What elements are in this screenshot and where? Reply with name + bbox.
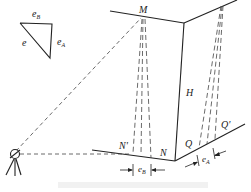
label-text: M	[139, 4, 147, 15]
label-eB-triangle: eB	[32, 9, 40, 20]
plumb-projections-M	[133, 19, 151, 158]
label-H: H	[186, 88, 193, 98]
label-text: e	[22, 37, 26, 48]
label-subscript: A	[61, 42, 65, 48]
diagram-canvas	[0, 0, 251, 192]
label-text: H	[186, 87, 193, 98]
theodolite-icon	[6, 150, 21, 177]
plumb-projections-right	[199, 6, 223, 148]
label-text: Q	[185, 138, 192, 149]
label-eA-triangle: eA	[57, 37, 65, 48]
label-e-triangle: e	[22, 38, 26, 48]
label-subscript: B	[36, 14, 40, 20]
label-eB-dimension: eB	[138, 165, 146, 175]
label-subscript: B	[142, 169, 146, 175]
label-Q: Q	[185, 139, 192, 149]
label-M: M	[139, 5, 147, 15]
label-N: N	[160, 148, 167, 158]
label-eA-dimension: eA	[202, 155, 210, 165]
label-N-prime: N'	[119, 141, 128, 151]
label-text: N	[160, 147, 167, 158]
sight-lines	[16, 18, 141, 154]
label-Q-prime: Q'	[221, 120, 230, 130]
top-right-edge	[184, 0, 237, 23]
label-subscript: A	[206, 159, 210, 165]
label-text: Q'	[221, 119, 230, 130]
label-text: N'	[119, 140, 128, 151]
vertical-corner-edge	[175, 23, 184, 161]
figure-caption-faint	[58, 182, 208, 188]
